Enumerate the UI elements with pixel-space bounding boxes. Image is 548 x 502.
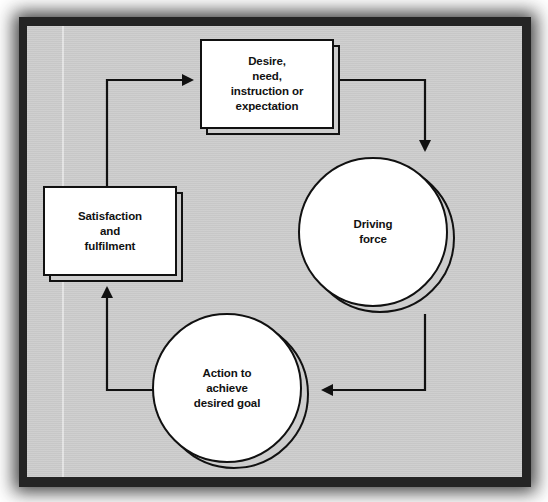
node-front-sheet: Satisfaction and fulfilment [43,186,177,276]
diagram-stage: Desire, need, instruction or expectation… [0,0,548,502]
node-label-action: Action to achieve desired goal [194,366,261,411]
connector-desire-to-driving-force [334,80,425,150]
node-front-disc: Driving force [298,157,448,307]
diagram-canvas: Desire, need, instruction or expectation… [27,26,522,477]
node-label-satisfaction: Satisfaction and fulfilment [78,209,142,254]
node-label-desire: Desire, need, instruction or expectation [231,54,304,114]
node-front-sheet: Desire, need, instruction or expectation [200,39,334,129]
node-satisfaction-and-fulfilment[interactable]: Satisfaction and fulfilment [43,186,183,282]
node-front-disc: Action to achieve desired goal [152,313,302,463]
connector-driving-force-to-action [323,314,425,390]
node-desire-need-instruction-expectation[interactable]: Desire, need, instruction or expectation [200,39,340,135]
node-label-driving-force: Driving force [354,217,393,247]
node-action-to-achieve-desired-goal[interactable]: Action to achieve desired goal [152,313,311,471]
connector-satisfaction-to-desire [107,80,192,186]
node-driving-force[interactable]: Driving force [298,157,457,315]
